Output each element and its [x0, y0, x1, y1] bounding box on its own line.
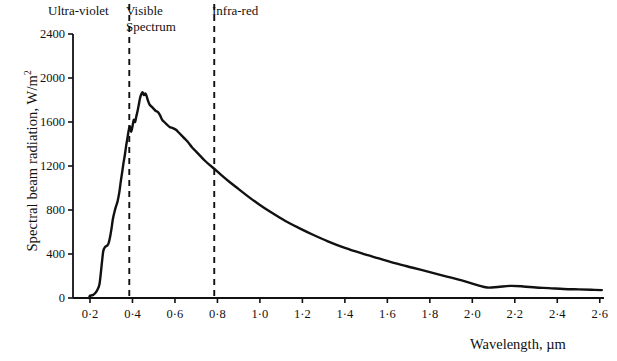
x-tick-label-1.4: 1·4 — [337, 307, 354, 321]
x-tick-label-0.8: 0·8 — [209, 307, 226, 321]
y-tick-label-1600: 1600 — [40, 115, 65, 129]
x-tick-label-2.4: 2·4 — [549, 307, 566, 321]
spectral-radiation-chart: Spectral beam radiation, W/m2 Wavelength… — [0, 0, 617, 361]
spectral-radiation-curve — [90, 92, 602, 296]
plot-area: 040080012001600200024000·20·40·60·81·01·… — [0, 0, 617, 361]
x-tick-label-1: 1·0 — [252, 307, 269, 321]
y-tick-label-1200: 1200 — [40, 159, 65, 173]
x-tick-label-0.4: 0·4 — [124, 307, 141, 321]
x-tick-label-0.6: 0·6 — [167, 307, 184, 321]
x-tick-label-2: 2·0 — [464, 307, 481, 321]
x-tick-label-1.2: 1·2 — [294, 307, 311, 321]
y-tick-label-400: 400 — [46, 247, 65, 261]
y-tick-label-2400: 2400 — [40, 27, 65, 41]
x-tick-label-1.8: 1·8 — [421, 307, 438, 321]
x-tick-label-1.6: 1·6 — [379, 307, 396, 321]
x-tick-label-2.2: 2·2 — [506, 307, 523, 321]
y-tick-label-0: 0 — [59, 291, 65, 305]
x-tick-label-0.2: 0·2 — [82, 307, 99, 321]
y-tick-label-2000: 2000 — [40, 71, 65, 85]
y-tick-label-800: 800 — [46, 203, 65, 217]
x-tick-label-2.6: 2·6 — [591, 307, 608, 321]
curve-baseline-foot — [89, 296, 90, 298]
